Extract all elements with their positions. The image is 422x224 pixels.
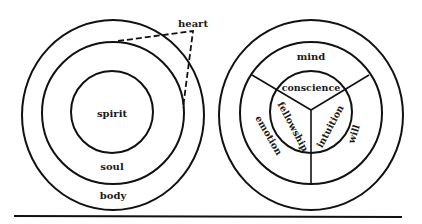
label-emotion: emotion bbox=[253, 114, 284, 157]
label-spirit: spirit bbox=[97, 108, 127, 119]
label-intuition: intuition bbox=[314, 103, 346, 149]
label-body: body bbox=[100, 190, 128, 201]
label-mind: mind bbox=[297, 51, 326, 62]
label-will: will bbox=[345, 123, 362, 146]
label-conscience: conscience bbox=[282, 82, 341, 93]
label-heart: heart bbox=[178, 18, 208, 29]
horizontal-rule bbox=[14, 216, 402, 217]
right-diagram bbox=[219, 20, 403, 210]
label-soul: soul bbox=[100, 161, 124, 172]
spirit-soul-body-diagram: spirit soul body heart mind conscience f… bbox=[0, 0, 422, 224]
